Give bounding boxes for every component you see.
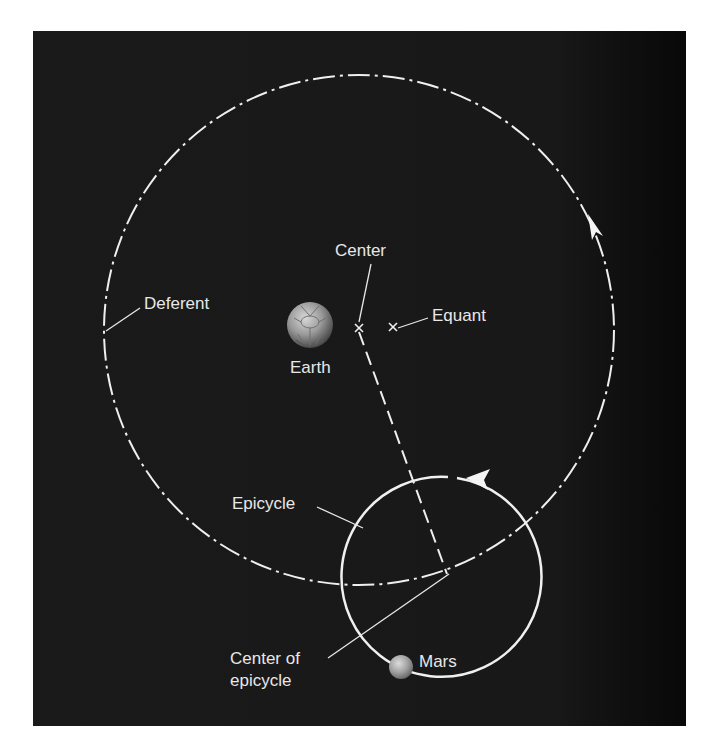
mars-icon xyxy=(389,655,413,679)
label-center-of-epicycle-1: Center of xyxy=(230,649,300,668)
center-to-epicycle-line xyxy=(359,332,447,574)
label-deferent: Deferent xyxy=(144,294,209,313)
label-epicycle: Epicycle xyxy=(232,494,295,513)
epicycle-circle xyxy=(341,477,541,677)
deferent-leader-line xyxy=(106,308,140,331)
label-equant: Equant xyxy=(432,306,486,325)
equant-leader-line xyxy=(398,318,428,328)
label-center-of-epicycle-2: epicycle xyxy=(230,671,291,690)
earth-icon xyxy=(287,302,333,348)
label-earth: Earth xyxy=(290,358,331,377)
epicycle-arrow-icon xyxy=(466,469,490,490)
label-mars: Mars xyxy=(419,652,457,671)
center-of-epicycle-leader-line xyxy=(328,574,449,658)
equant-mark-icon xyxy=(389,323,397,331)
label-center: Center xyxy=(335,241,386,260)
deferent-circle xyxy=(104,75,614,585)
epicycle-leader-line xyxy=(317,507,363,528)
center-mark-icon xyxy=(355,324,363,332)
epicycle-diagram: Center Deferent Equant Earth Epicycle Ce… xyxy=(0,0,702,745)
center-leader-line xyxy=(359,264,371,322)
